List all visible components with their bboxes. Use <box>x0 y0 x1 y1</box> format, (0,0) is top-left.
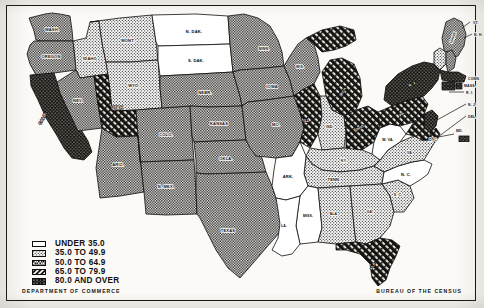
label-SDAK: S. DAK. <box>188 58 204 63</box>
label-WASH: WASH. <box>45 27 59 32</box>
label-IDAHO: IDAHO <box>83 56 97 61</box>
label-MINN: MINN. <box>259 47 270 51</box>
label-GA: GA. <box>367 210 374 214</box>
legend-swatch-80-over <box>32 278 46 284</box>
label-ILL: ILL. <box>304 119 311 123</box>
label-MISS: MISS. <box>303 214 313 218</box>
label-NEV: NEV. <box>73 98 83 103</box>
legend-row-50-64[interactable]: 50.0 TO 64.9 <box>32 259 182 267</box>
label-NMEX: N. MEX. <box>158 184 174 189</box>
label-KANSAS: KANSAS <box>210 121 228 126</box>
label-KY: KY. <box>341 159 347 163</box>
label-VT: VT. <box>473 21 479 25</box>
label-IND: IND. <box>326 125 334 129</box>
label-NC: N. C. <box>401 172 411 177</box>
label-MASS: MASS. <box>464 84 476 88</box>
label-TEXAS: TEXAS <box>221 228 235 233</box>
footer-bureau-of-the-census: BUREAU OF THE CENSUS <box>376 288 462 294</box>
state-GA[interactable] <box>350 184 394 244</box>
legend-row-under-35[interactable]: UNDER 35.0 <box>32 240 182 248</box>
label-LA: LA. <box>281 224 287 228</box>
label-WIS: WIS. <box>296 65 304 69</box>
label-WYO: WYO. <box>128 83 139 88</box>
label-TENN: TENN. <box>328 177 341 182</box>
label-DC: D. C. <box>429 138 438 142</box>
label-ARK: ARK. <box>283 174 294 179</box>
label-WVA: W. VA. <box>382 138 394 142</box>
legend-row-35-49[interactable]: 35.0 TO 49.9 <box>32 249 182 257</box>
legend-swatch-50-64 <box>32 260 46 266</box>
state-FLA[interactable] <box>336 238 400 286</box>
state-MINN[interactable] <box>228 14 284 72</box>
label-DEL: DEL. <box>468 115 477 119</box>
label-SC: S. C. <box>394 193 403 197</box>
label-MO: MO. <box>272 122 280 127</box>
label-MD: MD. <box>456 129 463 133</box>
label-ARIZ: ARIZ. <box>112 162 123 167</box>
label-VA: VA. <box>407 151 413 155</box>
label-NDAK: N. DAK. <box>186 29 202 34</box>
legend-label-65-79: 65.0 TO 79.9 <box>55 268 106 276</box>
state-MASS[interactable] <box>440 70 466 82</box>
label-NJ: N. J. <box>468 103 476 107</box>
map-legend: UNDER 35.0 35.0 TO 49.9 50.0 TO 64.9 65.… <box>32 240 182 286</box>
label-NEBR: NEBR. <box>198 90 211 95</box>
label-NH: N. H. <box>474 33 483 37</box>
label-RI: R. I. <box>466 91 473 95</box>
dc-callout-swatch <box>459 136 469 142</box>
legend-row-80-over[interactable]: 80.0 AND OVER <box>32 277 182 285</box>
map-page: WASH. OREGON CALIF. IDAHO NEV. MONT. WYO… <box>0 0 484 308</box>
label-COLO: COLO. <box>159 132 173 137</box>
footer-department-of-commerce: DEPARTMENT OF COMMERCE <box>22 288 121 294</box>
state-MO[interactable] <box>242 96 304 158</box>
label-ALA: ALA. <box>330 212 339 216</box>
label-MONT: MONT. <box>121 38 134 43</box>
label-OREGON: OREGON <box>42 54 61 59</box>
legend-row-65-79[interactable]: 65.0 TO 79.9 <box>32 268 182 276</box>
legend-swatch-under-35 <box>32 241 46 247</box>
label-CONN: CONN. <box>468 77 480 81</box>
legend-label-50-64: 50.0 TO 64.9 <box>55 259 106 267</box>
legend-label-80-over: 80.0 AND OVER <box>55 277 119 285</box>
label-UTAH: UTAH <box>111 105 123 110</box>
legend-swatch-35-49 <box>32 250 46 256</box>
label-IOWA: IOWA <box>266 84 277 89</box>
legend-label-under-35: UNDER 35.0 <box>55 240 105 248</box>
label-OKLA: OKLA. <box>219 156 232 161</box>
legend-swatch-65-79 <box>32 269 46 275</box>
legend-label-35-49: 35.0 TO 49.9 <box>55 249 106 257</box>
